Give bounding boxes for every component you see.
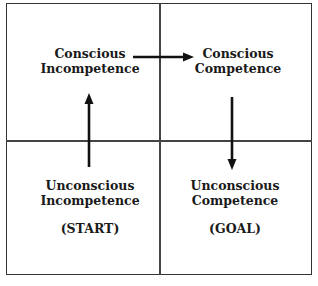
arrow-right-icon: [133, 53, 194, 62]
arrow-down-icon: [228, 97, 237, 170]
arrow-up-icon: [85, 93, 94, 167]
arrows-layer: [0, 0, 318, 286]
